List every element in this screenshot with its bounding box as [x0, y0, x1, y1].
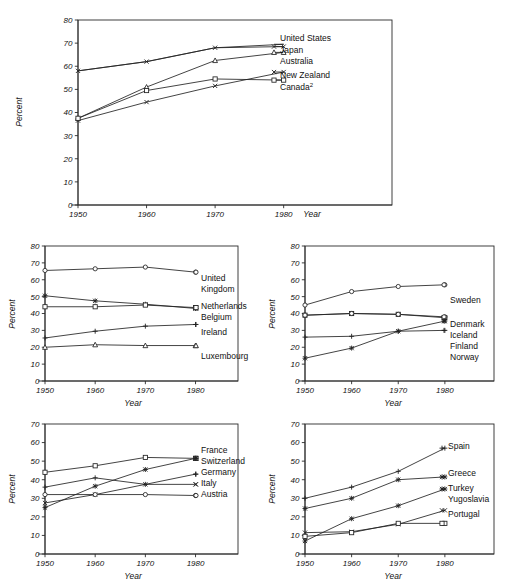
x-tick-label: 1950 — [296, 559, 314, 568]
data-point-marker — [194, 456, 199, 461]
legend-label: Norway — [450, 352, 480, 362]
series-france — [43, 455, 198, 474]
series-greece — [303, 474, 448, 511]
x-tick-label: 1980 — [436, 386, 454, 395]
data-point-marker — [396, 469, 401, 474]
data-point-marker — [440, 521, 444, 525]
panel-western-europe: 010203040506070801950196019701980UnitedK… — [0, 236, 262, 414]
data-point-marker — [144, 88, 148, 92]
x-tick-label: 1960 — [86, 559, 104, 568]
data-point-marker — [350, 289, 354, 293]
y-axis-title: Percent — [267, 474, 277, 504]
x-tick-label: 1970 — [136, 386, 154, 395]
series-norway — [303, 328, 448, 340]
x-tick-label: 1980 — [436, 559, 454, 568]
data-point-marker — [272, 78, 276, 82]
series-luxembourg — [43, 342, 199, 349]
data-point-marker — [349, 485, 354, 490]
y-tick-label: 60 — [31, 438, 40, 447]
y-tick-label: 40 — [64, 108, 73, 117]
legend-label: Greece — [448, 468, 476, 478]
data-point-marker — [442, 319, 447, 324]
data-point-marker — [143, 303, 147, 307]
x-tick-label: 1950 — [36, 386, 54, 395]
legend-label: Netherlands — [201, 301, 247, 311]
legend-label: Japan — [280, 45, 303, 55]
data-point-marker — [93, 305, 97, 309]
data-point-marker — [440, 474, 445, 479]
chart-canvas-western-europe: 010203040506070801950196019701980UnitedK… — [0, 236, 262, 414]
data-point-marker — [43, 492, 47, 496]
y-tick-label: 50 — [31, 293, 40, 302]
data-point-marker — [350, 531, 354, 535]
panel-central-europe: 0102030405060701950196019701980FranceSwi… — [0, 414, 262, 586]
y-axis-title: Percent — [7, 474, 17, 504]
data-point-marker — [396, 521, 400, 525]
y-tick-label: 10 — [291, 531, 300, 540]
data-point-marker — [303, 539, 308, 544]
x-tick-label: 1980 — [187, 386, 205, 395]
chart-canvas-top: 010203040506070801950196019701980United … — [0, 8, 460, 230]
data-point-marker — [194, 322, 199, 327]
y-tick-label: 50 — [31, 457, 40, 466]
y-tick-label: 70 — [291, 420, 300, 429]
data-point-marker — [43, 335, 48, 340]
x-axis-title: Year — [384, 571, 403, 581]
x-tick-label: 1970 — [389, 386, 407, 395]
y-tick-label: 70 — [64, 39, 73, 48]
data-point-marker — [349, 516, 354, 521]
series-united-kingdom — [43, 265, 198, 274]
data-point-marker — [303, 534, 307, 538]
legend-label: Italy — [201, 478, 217, 488]
data-point-marker — [303, 356, 308, 361]
legend-label: Denmark — [450, 319, 485, 329]
legend-label: Yugoslavia — [448, 494, 489, 504]
data-point-marker — [143, 492, 147, 496]
y-tick-label: 70 — [31, 420, 40, 429]
data-point-marker — [213, 77, 217, 81]
y-tick-label: 20 — [63, 155, 73, 164]
series-spain — [303, 446, 448, 501]
series-germany — [43, 472, 199, 490]
data-point-marker — [143, 455, 147, 459]
data-point-marker — [43, 293, 48, 298]
series-netherlands — [43, 293, 199, 311]
x-tick-label: 1950 — [69, 210, 87, 219]
y-tick-label: 80 — [291, 242, 300, 251]
x-axis-title: Year — [303, 209, 322, 219]
x-tick-label: 1980 — [187, 559, 205, 568]
series-iceland — [303, 311, 447, 319]
y-tick-label: 40 — [31, 476, 40, 485]
data-point-marker — [303, 506, 308, 511]
y-axis-title: Percent — [14, 97, 24, 127]
legend-label: Canada2 — [280, 82, 314, 92]
legend-label: United States — [280, 33, 331, 43]
data-point-marker — [143, 467, 148, 472]
series-canada- — [76, 77, 286, 121]
x-tick-label: 1960 — [86, 386, 104, 395]
data-point-marker — [43, 305, 47, 309]
panel-oceania-north-america: 010203040506070801950196019701980United … — [0, 8, 460, 230]
data-point-marker — [143, 265, 147, 269]
y-tick-label: 70 — [291, 259, 300, 268]
y-tick-label: 10 — [64, 178, 73, 187]
series-belgium — [43, 303, 198, 310]
y-tick-label: 20 — [290, 343, 300, 352]
data-point-marker — [194, 270, 198, 274]
y-tick-label: 10 — [291, 360, 300, 369]
y-tick-label: 80 — [64, 16, 73, 25]
y-tick-label: 50 — [64, 85, 73, 94]
legend-label: Spain — [448, 441, 470, 451]
y-tick-label: 20 — [30, 343, 40, 352]
legend-label: Turkey — [448, 483, 474, 493]
data-point-marker — [303, 303, 307, 307]
faint-page-header — [70, 0, 470, 8]
series-ireland — [43, 322, 199, 341]
y-tick-label: 60 — [291, 276, 300, 285]
y-tick-label: 10 — [31, 531, 40, 540]
data-point-marker — [93, 464, 97, 468]
legend-label: Kingdom — [201, 284, 235, 294]
data-point-marker — [440, 446, 445, 451]
series-portugal — [303, 521, 447, 538]
y-tick-label: 10 — [31, 360, 40, 369]
